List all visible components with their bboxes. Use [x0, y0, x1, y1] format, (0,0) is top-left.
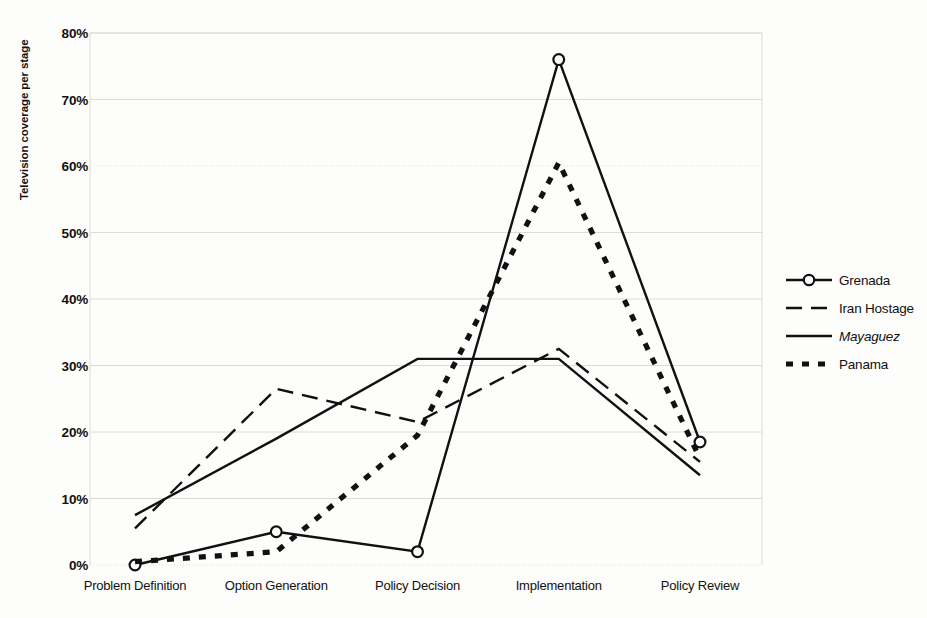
legend-label: Mayaguez — [839, 329, 900, 344]
x-axis-tick-label: Policy Decision — [375, 578, 460, 593]
x-axis-tick-label: Option Generation — [225, 578, 328, 593]
line-solid-icon — [786, 329, 832, 343]
series-line — [135, 163, 700, 562]
chart-container: Television coverage per stage 0%10%20%30… — [0, 0, 927, 618]
x-axis-tick-label: Implementation — [516, 578, 602, 593]
data-point-marker — [412, 546, 423, 557]
data-point-marker — [271, 526, 282, 537]
series-panama — [135, 163, 700, 562]
line-dashed-icon — [786, 301, 832, 315]
x-axis-tick-label: Policy Review — [661, 578, 739, 593]
x-axis-tick-label: Problem Definition — [84, 578, 187, 593]
legend-item-grenada[interactable]: Grenada — [786, 266, 926, 294]
legend-item-mayaguez[interactable]: Mayaguez — [786, 322, 926, 350]
chart-legend: GrenadaIran HostageMayaguezPanama — [786, 266, 926, 378]
legend-marker — [804, 275, 814, 285]
legend-label: Grenada — [839, 273, 890, 288]
series-grenada — [130, 54, 706, 570]
data-point-marker — [553, 54, 564, 65]
series-line — [135, 60, 700, 565]
legend-label: Iran Hostage — [839, 301, 914, 316]
legend-label: Panama — [839, 357, 888, 372]
line-circle-marker-icon — [786, 273, 832, 287]
line-dotted-icon — [786, 357, 832, 371]
legend-item-panama[interactable]: Panama — [786, 350, 926, 378]
legend-item-iran-hostage[interactable]: Iran Hostage — [786, 294, 926, 322]
